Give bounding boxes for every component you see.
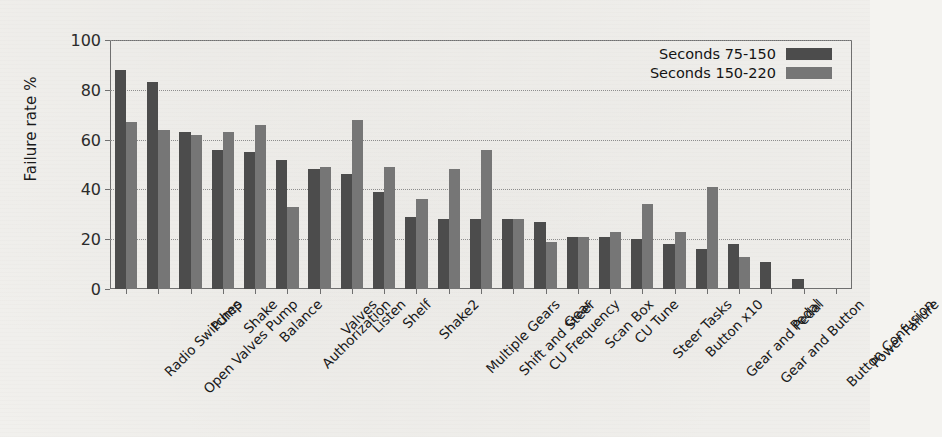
- bar: [179, 132, 190, 289]
- bar: [599, 237, 610, 289]
- y-tick-label: 40: [81, 180, 101, 199]
- bar: [481, 150, 492, 289]
- bar: [115, 70, 126, 289]
- bar: [663, 244, 674, 289]
- bar: [642, 204, 653, 289]
- bar: [534, 222, 545, 289]
- bar-group: [239, 40, 271, 289]
- bar: [675, 232, 686, 289]
- bar: [728, 244, 739, 289]
- x-tick-label: Open Valves Pump: [200, 296, 301, 397]
- legend-swatch-seconds-75-150: [786, 48, 832, 60]
- legend-entry: Seconds 75-150: [592, 44, 832, 63]
- bar-group: [175, 40, 207, 289]
- y-tick-label: 80: [81, 80, 101, 99]
- bar: [502, 219, 513, 289]
- bar-group: [368, 40, 400, 289]
- bar-group: [400, 40, 432, 289]
- bar: [255, 125, 266, 289]
- y-tick-mark: [105, 289, 110, 290]
- bar: [147, 82, 158, 289]
- bar-group: [497, 40, 529, 289]
- bar-group: [304, 40, 336, 289]
- bar: [416, 199, 427, 289]
- bar: [212, 150, 223, 289]
- bar: [578, 237, 589, 289]
- y-axis-title: Failure rate %: [22, 49, 40, 209]
- legend-label: Seconds 75-150: [659, 46, 776, 62]
- bar: [126, 122, 137, 289]
- bar: [352, 120, 363, 289]
- bar-group: [465, 40, 497, 289]
- y-tick-label: 100: [70, 31, 101, 50]
- bar-group: [271, 40, 303, 289]
- bar: [696, 249, 707, 289]
- bar: [567, 237, 578, 289]
- bar: [191, 135, 202, 289]
- chart-legend: Seconds 75-150 Seconds 150-220: [592, 44, 832, 82]
- bar-group: [336, 40, 368, 289]
- x-tick-label: Shake2: [436, 296, 482, 342]
- bar-group: [562, 40, 594, 289]
- bar: [373, 192, 384, 289]
- bar: [610, 232, 621, 289]
- bar: [244, 152, 255, 289]
- bar-group: [207, 40, 239, 289]
- legend-label: Seconds 150-220: [650, 65, 776, 81]
- bar: [546, 242, 557, 289]
- bar: [276, 160, 287, 289]
- bar: [158, 130, 169, 289]
- bar: [513, 219, 524, 289]
- bar: [405, 217, 416, 289]
- bar-group: [110, 40, 142, 289]
- bar: [308, 169, 319, 289]
- y-tick-label: 20: [81, 230, 101, 249]
- bar: [792, 279, 803, 289]
- x-tick-label: Shelf: [399, 296, 434, 331]
- bar: [287, 207, 298, 289]
- bar: [739, 257, 750, 289]
- bar: [438, 219, 449, 289]
- bar: [341, 174, 352, 289]
- bar: [760, 262, 771, 289]
- bar: [223, 132, 234, 289]
- bar: [320, 167, 331, 289]
- bar-group: [433, 40, 465, 289]
- x-axis-tick-labels: Radio SwitchesOpen Valves PumpPumpShakeB…: [110, 292, 852, 437]
- legend-swatch-seconds-150-220: [786, 67, 832, 79]
- bar-group: [142, 40, 174, 289]
- bar-group: [529, 40, 561, 289]
- y-tick-label: 0: [91, 280, 101, 299]
- bar: [449, 169, 460, 289]
- legend-entry: Seconds 150-220: [592, 63, 832, 82]
- bar: [631, 239, 642, 289]
- bar: [470, 219, 481, 289]
- bar: [707, 187, 718, 289]
- y-tick-label: 60: [81, 130, 101, 149]
- bar: [384, 167, 395, 289]
- x-tick-label: Power Failure: [867, 296, 942, 371]
